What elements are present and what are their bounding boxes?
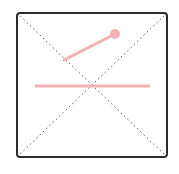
endpoint-circle bbox=[110, 29, 120, 39]
diagram-canvas bbox=[0, 0, 179, 174]
slanted-segment bbox=[64, 34, 115, 60]
